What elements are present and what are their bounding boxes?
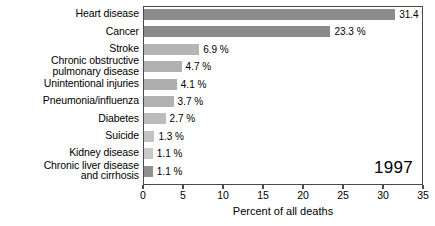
bar-value-label: 23.3 % [334,26,365,37]
x-tick-label: 20 [297,190,309,201]
category-label: Chronic obstructive pulmonary disease [0,55,139,76]
x-tick-label: 35 [417,190,429,201]
bar-value-label: 4.7 % [186,61,212,72]
x-axis-title: Percent of all deaths [143,205,423,217]
x-tick-label: 5 [180,190,186,201]
bar-value-label: 1.1 % [157,148,183,159]
bar-value-label: 1.3 % [158,131,184,142]
bar [144,166,153,177]
bar-value-label: 31.4 % [399,9,423,20]
bar [144,61,182,72]
category-label: Chronic liver disease and cirrhosis [0,160,139,181]
x-tick-label: 15 [257,190,269,201]
category-label: Unintentional injuries [0,78,139,89]
category-label: Suicide [0,130,139,141]
category-label: Kidney disease [0,147,139,158]
bar-value-label: 1.1 % [157,166,183,177]
x-tick-label: 30 [377,190,389,201]
bar [144,148,153,159]
bar-value-label: 6.9 % [203,44,229,55]
category-label: Pneumonia/influenza [0,95,139,106]
year-annotation: 1997 [374,159,413,176]
category-label: Cancer [0,26,139,37]
bar [144,44,199,55]
bar-chart: Heart diseaseCancerStrokeChronic obstruc… [0,0,435,226]
category-label: Diabetes [0,113,139,124]
bar-value-label: 4.1 % [181,79,207,90]
bar-value-label: 2.7 % [170,113,196,124]
bar [144,131,154,142]
bar [144,9,395,20]
category-label: Stroke [0,43,139,54]
x-tick-label: 10 [217,190,229,201]
x-axis: 05101520253035 [143,185,423,203]
plot-area: 31.4 %23.3 %6.9 %4.7 %4.1 %3.7 %2.7 %1.3… [143,6,423,185]
x-tick-label: 25 [337,190,349,201]
category-label: Heart disease [0,8,139,19]
x-tick-label: 0 [140,190,146,201]
bar [144,26,330,37]
bar [144,113,166,124]
bar-value-label: 3.7 % [178,96,204,107]
bar [144,96,174,107]
bar [144,79,177,90]
category-axis-labels: Heart diseaseCancerStrokeChronic obstruc… [0,6,139,185]
